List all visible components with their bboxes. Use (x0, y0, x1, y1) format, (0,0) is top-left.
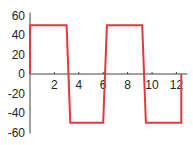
x-tick-label: 10 (145, 78, 159, 92)
y-tick-label: -40 (8, 106, 26, 120)
x-tick-label: 4 (75, 78, 82, 92)
x-axis-tick-labels: 24681012 (51, 78, 183, 92)
chart: 6040200-20-40-60 24681012 (0, 0, 193, 145)
y-tick-label: -60 (8, 126, 26, 140)
y-tick-label: 0 (18, 67, 25, 81)
x-tick-label: 2 (51, 78, 58, 92)
y-tick-label: 20 (12, 48, 26, 62)
x-tick-label: 8 (124, 78, 131, 92)
y-tick-label: -20 (8, 87, 26, 101)
y-tick-label: 40 (12, 28, 26, 42)
y-axis-tick-labels: 6040200-20-40-60 (8, 9, 26, 140)
y-tick-label: 60 (12, 9, 26, 23)
